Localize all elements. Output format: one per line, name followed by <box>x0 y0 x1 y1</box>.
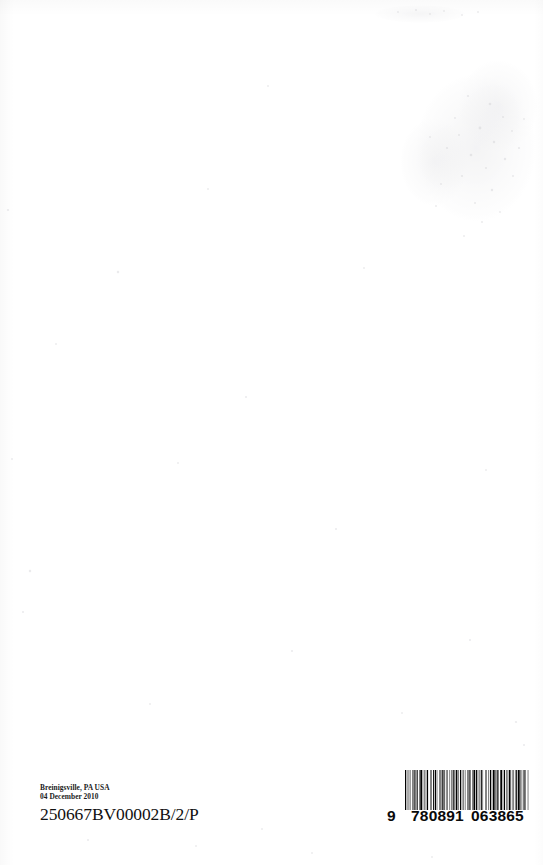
isbn-barcode: 9 780891 063865 <box>384 770 532 826</box>
imprint-date: 04 December 2010 <box>40 792 300 801</box>
barcode-right-group: 063865 <box>471 807 524 825</box>
barcode-lead-digit: 9 <box>387 807 396 825</box>
book-back-cover-page: Breinigsville, PA USA 04 December 2010 2… <box>0 0 543 865</box>
scan-smudge-artifact <box>372 0 543 245</box>
barcode-bars <box>405 770 529 810</box>
barcode-digits: 9 780891 063865 <box>384 807 532 826</box>
dust-specks-artifact <box>0 0 543 865</box>
paper-vignette <box>0 0 543 865</box>
printer-imprint-block: Breinigsville, PA USA 04 December 2010 2… <box>40 783 300 824</box>
imprint-location: Breinigsville, PA USA <box>40 783 300 792</box>
imprint-print-code: 250667BV00002B/2/P <box>40 804 300 824</box>
barcode-left-group: 780891 <box>411 807 464 825</box>
